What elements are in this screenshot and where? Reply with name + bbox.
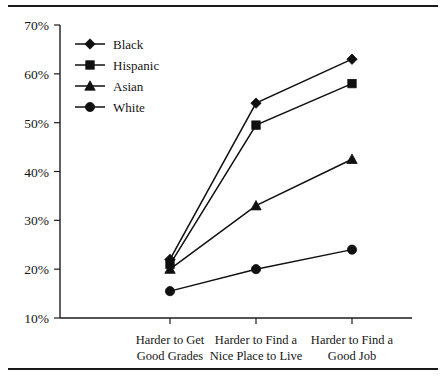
data-point-square	[348, 79, 356, 87]
legend-item-hispanic[interactable]: Hispanic	[75, 58, 159, 73]
x-tick-label: Harder to Find a	[215, 333, 298, 347]
series-white	[165, 245, 356, 296]
data-point-diamond	[347, 54, 357, 64]
chart-legend: BlackHispanicAsianWhite	[75, 37, 159, 115]
legend-label: Hispanic	[113, 58, 159, 73]
data-point-square	[252, 121, 260, 129]
y-tick-label: 20%	[24, 262, 49, 277]
series-line	[170, 250, 352, 292]
legend-item-white[interactable]: White	[75, 100, 145, 115]
x-tick-label: Harder to Find a	[311, 333, 394, 347]
y-tick-label: 30%	[24, 213, 49, 228]
y-tick-label: 60%	[24, 67, 49, 82]
y-tick-label: 70%	[24, 18, 49, 33]
legend-item-black[interactable]: Black	[75, 37, 144, 52]
legend-label: Black	[113, 37, 144, 52]
legend-item-asian[interactable]: Asian	[75, 79, 144, 94]
legend-label: White	[113, 100, 145, 115]
series-asian	[165, 154, 357, 273]
series-line	[170, 59, 352, 259]
series-group	[165, 54, 357, 296]
y-tick-label: 40%	[24, 165, 49, 180]
series-hispanic	[166, 79, 356, 268]
series-black	[165, 54, 357, 265]
line-chart: 10%20%30%40%50%60%70% Harder to GetGood …	[0, 0, 446, 381]
data-point-circle	[85, 102, 94, 111]
x-tick-labels: Harder to GetGood GradesHarder to Find a…	[136, 333, 394, 363]
y-tick-labels: 10%20%30%40%50%60%70%	[24, 18, 49, 326]
data-point-circle	[165, 287, 174, 296]
data-point-square	[86, 61, 94, 69]
data-point-diamond	[85, 39, 95, 49]
y-tick-label: 10%	[24, 311, 49, 326]
x-tick-label: Nice Place to Live	[210, 349, 303, 363]
y-tick-label: 50%	[24, 116, 49, 131]
bottom-rule-divider	[8, 368, 438, 370]
data-point-circle	[251, 265, 260, 274]
y-tick-group	[54, 25, 60, 318]
data-point-triangle	[347, 154, 357, 163]
x-tick-group	[170, 318, 352, 324]
series-line	[170, 84, 352, 265]
legend-label: Asian	[113, 79, 144, 94]
data-point-diamond	[251, 98, 261, 108]
x-tick-label: Good Job	[328, 349, 376, 363]
x-tick-label: Harder to Get	[136, 333, 205, 347]
figure-container: 10%20%30%40%50%60%70% Harder to GetGood …	[0, 0, 446, 381]
data-point-triangle	[251, 200, 261, 209]
x-tick-label: Good Grades	[137, 349, 203, 363]
data-point-circle	[347, 245, 356, 254]
series-line	[170, 159, 352, 269]
